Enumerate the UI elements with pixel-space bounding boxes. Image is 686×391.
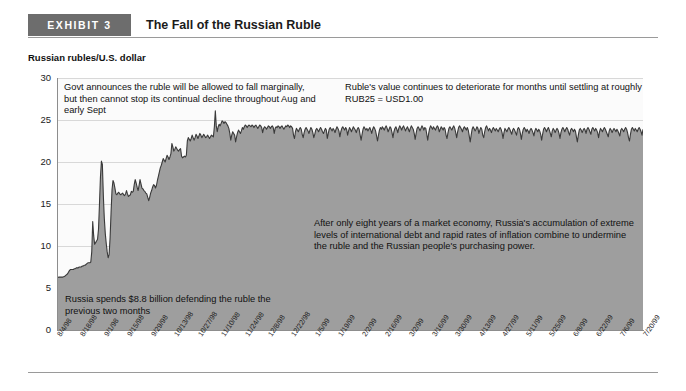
- y-axis-line: [57, 78, 58, 331]
- x-axis-ticks: 8/4/988/18/989/1/989/15/989/29/9810/13/9…: [57, 333, 647, 391]
- y-axis-ticks: 051015202530: [0, 78, 51, 331]
- plot-region: Govt announces the ruble will be allowed…: [57, 78, 643, 330]
- y-tick-label: 5: [5, 282, 51, 293]
- y-tick-label: 30: [5, 72, 51, 83]
- x-tick-label: 7/20/99: [641, 313, 662, 338]
- y-tick-label: 25: [5, 114, 51, 125]
- footer-divider: [28, 372, 658, 373]
- y-tick-label: 20: [5, 156, 51, 167]
- chart-area: 051015202530 Govt announces the ruble wi…: [0, 60, 686, 391]
- exhibit-header: EXHIBIT 3 The Fall of the Russian Ruble: [28, 14, 658, 38]
- exhibit-title: The Fall of the Russian Ruble: [146, 14, 321, 36]
- exhibit-figure: EXHIBIT 3 The Fall of the Russian Ruble …: [0, 0, 686, 391]
- annotation-ruble-deteriorates: Ruble's value continues to deteriorate f…: [345, 82, 645, 105]
- annotation-govt-announces: Govt announces the ruble will be allowed…: [64, 82, 316, 117]
- annotation-russia-spends: Russia spends $8.8 billion defending the…: [65, 294, 285, 317]
- y-tick-label: 15: [5, 198, 51, 209]
- y-tick-label: 10: [5, 240, 51, 251]
- exhibit-badge: EXHIBIT 3: [28, 14, 131, 36]
- annotation-market-economy: After only eight years of a market econo…: [314, 218, 634, 253]
- header-divider: [28, 37, 658, 38]
- y-tick-label: 0: [5, 324, 51, 335]
